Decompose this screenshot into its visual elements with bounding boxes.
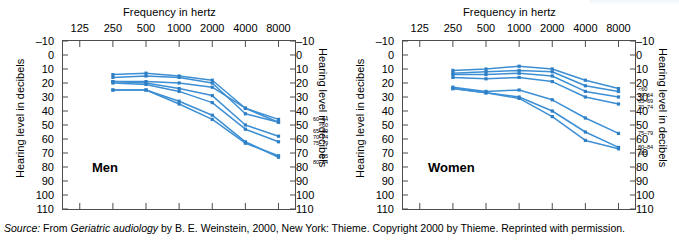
data-point-marker (111, 81, 114, 84)
data-point-marker (451, 69, 454, 72)
y-tick-l-80: 80 (382, 161, 394, 173)
y-tick-l-100: 100 (376, 189, 394, 201)
data-point-marker (551, 98, 554, 101)
x-tick-4000: 4000 (233, 22, 257, 34)
data-point-marker (584, 116, 587, 119)
data-point-marker (484, 70, 487, 73)
x-tick-500: 500 (477, 22, 495, 34)
data-point-marker (518, 76, 521, 79)
data-point-marker (518, 69, 521, 72)
y-tick-labels-left-women: –100102030405060708090100110 (364, 0, 394, 170)
y-tick-l-40: 40 (382, 105, 394, 117)
caption-text-lead: From (40, 222, 70, 234)
series-label-≥85: ≥85 (638, 150, 647, 156)
x-tick-125: 125 (411, 22, 429, 34)
data-point-marker (551, 74, 554, 77)
chart-panel-women: Frequency in hertz 125250500100020004000… (340, 0, 679, 215)
data-point-marker (617, 90, 620, 93)
data-point-marker (211, 79, 214, 82)
data-point-marker (244, 142, 247, 145)
series-canvas-men (63, 41, 295, 209)
data-point-marker (551, 80, 554, 83)
data-point-marker (144, 88, 147, 91)
data-point-marker (277, 121, 280, 124)
x-tick-2000: 2000 (540, 22, 564, 34)
y-tick-l-20: 20 (42, 77, 54, 89)
series-labels-men: 60–64<6065–6970–7475–79≥8580–84 (298, 40, 340, 212)
x-tick-1000: 1000 (507, 22, 531, 34)
data-point-marker (244, 107, 247, 110)
data-point-marker (617, 95, 620, 98)
y-tick-l-70: 70 (382, 147, 394, 159)
series-label-70–74: 70–74 (638, 104, 653, 110)
y-tick-l-100: 100 (36, 189, 54, 201)
data-point-marker (617, 132, 620, 135)
y-tick-l-50: 50 (42, 119, 54, 131)
plot-area-women (402, 40, 636, 210)
data-point-marker (617, 147, 620, 150)
data-point-marker (551, 70, 554, 73)
series-labels-women: <6060–6465–6970–7475–7980–84≥85 (638, 40, 679, 212)
y-tick-l-70: 70 (42, 147, 54, 159)
data-point-marker (244, 128, 247, 131)
data-point-marker (111, 73, 114, 76)
y-tick-l-50: 50 (382, 119, 394, 131)
data-point-marker (551, 109, 554, 112)
y-tick-l-0: 0 (48, 49, 54, 61)
data-point-marker (211, 114, 214, 117)
data-point-marker (484, 77, 487, 80)
x-tick-1000: 1000 (167, 22, 191, 34)
series-label-80–84: 80–84 (313, 159, 328, 165)
data-point-marker (584, 79, 587, 82)
series-canvas-women (403, 41, 635, 209)
y-tick-l-10: 10 (42, 63, 54, 75)
x-tick-125: 125 (71, 22, 89, 34)
x-tick-250: 250 (104, 22, 122, 34)
series-line-65–69 (453, 73, 619, 97)
data-point-marker (584, 90, 587, 93)
x-tick-500: 500 (137, 22, 155, 34)
y-tick-l--10: –10 (376, 35, 394, 47)
data-point-marker (178, 100, 181, 103)
x-tick-4000: 4000 (573, 22, 597, 34)
caption-book-title: Geriatric audiology (71, 222, 159, 234)
data-point-marker (584, 139, 587, 142)
data-point-marker (144, 74, 147, 77)
data-point-marker (484, 73, 487, 76)
data-point-marker (211, 81, 214, 84)
data-point-marker (211, 86, 214, 89)
data-point-marker (518, 72, 521, 75)
y-tick-l--10: –10 (36, 35, 54, 47)
data-point-marker (178, 81, 181, 84)
x-tick-8000: 8000 (266, 22, 290, 34)
data-point-marker (244, 123, 247, 126)
y-tick-l-20: 20 (382, 77, 394, 89)
data-point-marker (211, 94, 214, 97)
data-point-marker (551, 67, 554, 70)
data-point-marker (211, 101, 214, 104)
data-point-marker (144, 72, 147, 75)
data-point-marker (518, 97, 521, 100)
data-point-marker (111, 76, 114, 79)
data-point-marker (584, 130, 587, 133)
data-point-marker (111, 88, 114, 91)
data-point-marker (211, 118, 214, 121)
panel-title-women: Women (428, 160, 475, 175)
y-tick-l-80: 80 (42, 161, 54, 173)
series-line-≥85 (453, 89, 619, 149)
y-tick-l-90: 90 (382, 175, 394, 187)
panel-title-men: Men (92, 160, 118, 175)
data-point-marker (551, 115, 554, 118)
series-label-75–79: 75–79 (313, 140, 328, 146)
y-tick-l-90: 90 (42, 175, 54, 187)
x-tick-2000: 2000 (200, 22, 224, 34)
data-point-marker (518, 88, 521, 91)
y-tick-l-10: 10 (382, 63, 394, 75)
data-point-marker (277, 118, 280, 121)
series-line-<60 (453, 66, 619, 88)
series-line-75–79 (453, 87, 619, 133)
series-line-60–64 (453, 70, 619, 91)
series-label-75–79: 75–79 (638, 130, 653, 136)
caption-text-tail: by B. E. Weinstein, 2000, New York: Thie… (158, 222, 625, 234)
figure-caption: Source: From Geriatric audiology by B. E… (4, 222, 679, 235)
